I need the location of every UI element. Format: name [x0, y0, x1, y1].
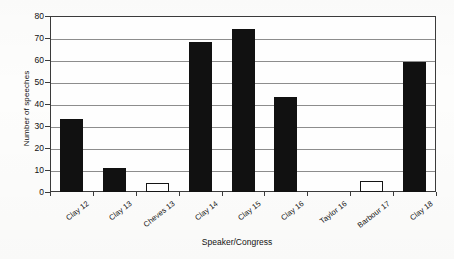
- x-tick-mark: [264, 192, 265, 196]
- x-tick-mark: [222, 192, 223, 196]
- x-tick-mark: [93, 192, 94, 196]
- y-tick-label: 60: [0, 55, 44, 65]
- bar: [274, 97, 297, 192]
- x-tick-label: Clay 15: [236, 199, 262, 222]
- x-axis-title: Speaker/Congress: [0, 237, 454, 247]
- bar: [103, 168, 126, 192]
- y-tick-label: 50: [0, 77, 44, 87]
- y-tick-label: 70: [0, 33, 44, 43]
- x-tick-label: Cheves 13: [142, 199, 177, 229]
- bar: [60, 119, 83, 192]
- x-tick-label: Clay 12: [65, 199, 91, 222]
- y-tick-label: 20: [0, 143, 44, 153]
- x-tick-label: Clay 18: [408, 199, 434, 222]
- bar: [403, 62, 426, 192]
- bar: [232, 29, 255, 192]
- bar: [360, 181, 383, 192]
- y-tick-label: 10: [0, 165, 44, 175]
- x-tick-label: Clay 14: [193, 199, 219, 222]
- y-tick-label: 40: [0, 99, 44, 109]
- x-tick-label: Clay 16: [279, 199, 305, 222]
- x-tick-mark: [307, 192, 308, 196]
- bar-chart: Number of speeches 01020304050607080 Cla…: [0, 0, 454, 259]
- x-tick-mark: [436, 192, 437, 196]
- x-tick-mark: [350, 192, 351, 196]
- bar: [146, 183, 169, 192]
- x-tick-mark: [179, 192, 180, 196]
- x-tick-mark: [50, 192, 51, 196]
- y-tick-label: 80: [0, 11, 44, 21]
- x-tick-label: Barbour 17: [355, 199, 391, 230]
- x-tick-label: Taylor 16: [318, 199, 349, 226]
- bars-group: [50, 16, 436, 192]
- y-tick-label: 30: [0, 121, 44, 131]
- x-tick-label: Clay 13: [107, 199, 133, 222]
- y-tick-label: 0: [0, 187, 44, 197]
- x-tick-mark: [393, 192, 394, 196]
- bar: [189, 42, 212, 192]
- x-tick-mark: [136, 192, 137, 196]
